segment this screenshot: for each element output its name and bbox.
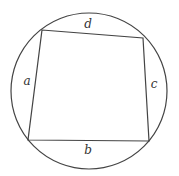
cyclic-quadrilateral-diagram: d c b a [0,0,179,176]
side-label-d: d [84,17,92,31]
side-label-b: b [84,143,92,157]
side-label-a: a [23,74,30,88]
quadrilateral [28,30,149,141]
side-label-c: c [151,77,158,91]
